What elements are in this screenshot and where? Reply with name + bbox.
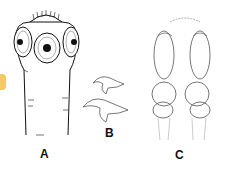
panel-c-drawing <box>0 0 225 169</box>
panel-label-c: C <box>175 148 184 162</box>
figure: A B C <box>0 0 225 169</box>
